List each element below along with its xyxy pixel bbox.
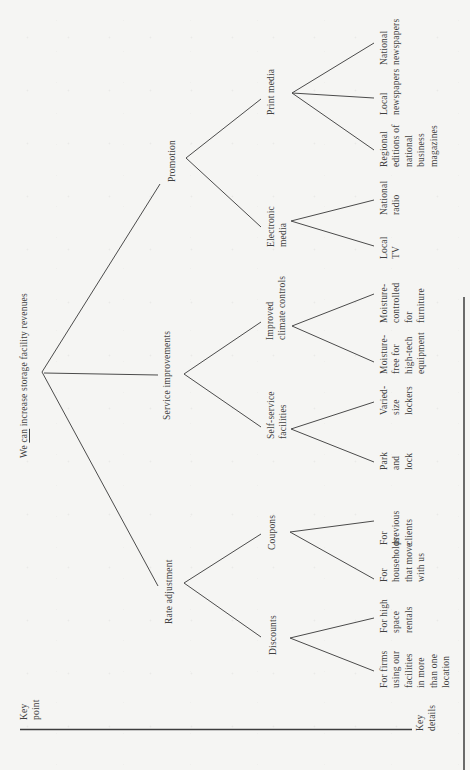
node-discounts: Discounts <box>267 615 279 655</box>
connector-service-climate <box>184 322 261 374</box>
node-self-service-facilities: Self-service facilities <box>265 391 290 439</box>
connector-coupons-households <box>290 532 374 579</box>
connector-promotion-print <box>186 99 261 158</box>
connector-root-rate <box>42 372 158 586</box>
connector-rate-discounts <box>184 583 261 637</box>
node-electronic-media: Electronic media <box>265 206 290 247</box>
root-text-emphasized: can <box>19 429 29 443</box>
leaf-moisture-controlled-furniture: Moisture- controlled for furniture <box>378 282 428 323</box>
scanned-book-page: Key point Key details We can increase st… <box>0 0 470 770</box>
connector-climate-moisturecontrolled <box>292 294 374 326</box>
leaf-moisture-free-equipment: Moisture- free for high-tech equipment <box>378 332 428 374</box>
leaf-firms-multiple-locations: For firms using our facilities in more t… <box>378 651 452 688</box>
revenue-tree-diagram: Key point Key details We can increase st… <box>0 0 470 770</box>
connector-rate-coupons <box>184 534 261 583</box>
connector-print-nationalnewspapers <box>292 43 374 93</box>
connector-electronic-localtv <box>291 221 374 246</box>
leaf-national-newspapers: National newspapers <box>378 19 403 65</box>
connector-service-selfservice <box>184 374 261 427</box>
connector-promotion-electronic <box>186 158 261 227</box>
connector-coupons-previous <box>290 521 374 532</box>
node-service-improvements: Service improvements <box>161 331 173 420</box>
node-coupons: Coupons <box>266 515 278 550</box>
connector-discounts-highspace <box>290 618 374 638</box>
leaf-previous-clients: For previous clients <box>378 511 415 545</box>
key-details-label: Key details <box>414 705 439 731</box>
node-promotion: Promotion <box>166 140 178 182</box>
root-text-pre: We <box>19 443 29 458</box>
connector-root-service <box>44 373 158 375</box>
leaf-regional-business-magazines: Regional editions of national business m… <box>378 124 440 167</box>
leaf-varied-size-lockers: Varied- size lockers <box>378 386 415 415</box>
connector-climate-moisturefree <box>292 326 374 362</box>
connector-selfservice-park <box>291 429 374 462</box>
connector-print-localnewspapers <box>292 93 374 98</box>
leaf-park-and-lock: Park and lock <box>378 452 415 470</box>
connector-selfservice-varied <box>291 402 374 429</box>
leaf-local-newspapers: Local newspapers <box>378 69 403 115</box>
leaf-high-space-rentals: For high space rentals <box>378 599 415 633</box>
connector-print-regional <box>292 93 374 150</box>
root-node: We can increase storage facility revenue… <box>18 293 30 458</box>
node-improved-climate-controls: Improved climate controls <box>264 276 289 340</box>
connector-electronic-nationalradio <box>291 200 374 221</box>
connector-discounts-firms <box>290 638 374 671</box>
leaf-national-radio: National radio <box>378 181 403 215</box>
connector-root-promotion <box>42 184 160 372</box>
root-text-post: increase storage facility revenues <box>19 293 29 429</box>
leaf-local-tv: Local TV <box>378 236 403 259</box>
key-point-label: Key point <box>18 699 43 720</box>
node-print-media: Print media <box>265 69 277 115</box>
node-rate-adjustment: Rate adjustment <box>163 560 175 624</box>
